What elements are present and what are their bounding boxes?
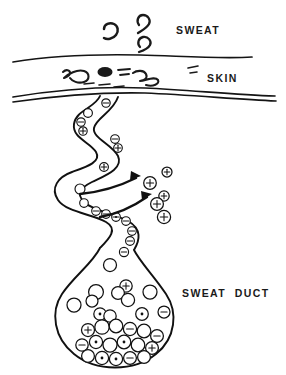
vesicle — [86, 295, 98, 307]
skin-pore-opening — [98, 67, 113, 77]
vesicle — [104, 259, 117, 272]
vesicle — [143, 285, 157, 299]
wall-ion — [114, 144, 123, 153]
free-ion-plus — [162, 167, 172, 177]
skin-dash-2 — [120, 74, 129, 75]
free-ion-plus — [157, 210, 170, 223]
wall-ion — [84, 109, 93, 118]
vesicle-minus — [151, 330, 164, 343]
vesicle-plus — [82, 324, 95, 337]
skin-dash-1 — [118, 69, 130, 70]
vesicle — [103, 338, 117, 352]
vesicle-dot — [89, 335, 102, 348]
wall-ion — [126, 237, 135, 246]
vesicle — [137, 324, 151, 338]
vesicle-minus — [158, 306, 170, 318]
label-sweat-duct: SWEAT DUCT — [182, 287, 270, 299]
label-sweat: SWEAT — [176, 24, 220, 36]
wall-ion — [80, 199, 89, 208]
vesicle-minus — [124, 352, 137, 365]
vesicle-dot — [117, 335, 131, 349]
skin-dash-3 — [84, 83, 94, 84]
wall-ion — [77, 118, 85, 126]
vesicle — [121, 293, 134, 306]
wall-ion — [102, 99, 110, 107]
skin-dash-4 — [99, 84, 110, 85]
vesicle — [82, 350, 95, 363]
vesicle — [109, 319, 123, 333]
wall-ion — [119, 247, 128, 256]
vesicle-dot — [95, 351, 108, 364]
sweat-duct-diagram: SWEAT SKIN SWEAT DUCT — [0, 0, 286, 375]
free-ion-plus — [151, 198, 164, 211]
wall-ion — [111, 135, 120, 144]
vesicle-dot — [136, 308, 149, 321]
diagram-canvas: SWEAT SKIN SWEAT DUCT — [0, 0, 286, 375]
wall-ion — [122, 217, 131, 226]
wall-ion — [92, 207, 101, 216]
vesicle — [67, 298, 81, 312]
wall-ion — [79, 127, 87, 135]
wall-ion — [100, 163, 109, 172]
vesicle — [95, 320, 109, 334]
vesicle-minus — [123, 322, 136, 335]
wall-ion — [128, 227, 137, 236]
free-ion-plus — [144, 177, 157, 190]
vesicle — [131, 338, 145, 352]
skin-dash-7 — [190, 72, 197, 73]
vesicle-dot — [109, 352, 122, 365]
label-skin: SKIN — [207, 72, 238, 84]
skin-dash-5 — [114, 86, 124, 87]
vesicle — [138, 351, 151, 364]
